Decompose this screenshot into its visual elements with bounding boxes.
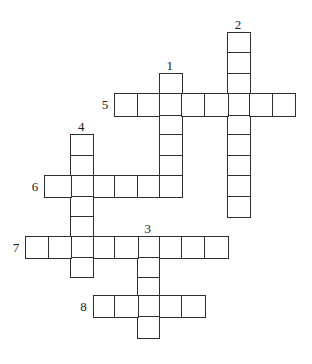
crossword-cell[interactable] — [181, 93, 206, 117]
crossword-cell[interactable] — [204, 236, 229, 259]
clue-number-7: 7 — [13, 240, 20, 253]
crossword-cell[interactable] — [227, 93, 251, 117]
crossword-cell[interactable] — [227, 32, 251, 53]
crossword-cell[interactable] — [227, 52, 251, 75]
crossword-cell[interactable] — [70, 155, 94, 177]
crossword-cell[interactable] — [93, 236, 116, 259]
crossword-cell[interactable] — [25, 236, 49, 259]
crossword-cell[interactable] — [227, 134, 251, 157]
crossword-cell[interactable] — [227, 196, 251, 218]
crossword-cell[interactable] — [204, 93, 229, 117]
crossword-cell[interactable] — [227, 73, 251, 95]
crossword-cell[interactable] — [137, 236, 160, 259]
crossword-cell[interactable] — [70, 196, 94, 218]
crossword-cell[interactable] — [137, 257, 160, 278]
crossword-cell[interactable] — [93, 175, 116, 198]
crossword-cell[interactable] — [70, 216, 94, 238]
crossword-cell[interactable] — [272, 93, 296, 117]
crossword-cell[interactable] — [114, 93, 139, 117]
clue-number-1: 1 — [167, 59, 174, 72]
clue-number-5: 5 — [102, 98, 109, 111]
crossword-cell[interactable] — [137, 295, 160, 318]
crossword-cell[interactable] — [44, 175, 72, 198]
crossword-cell[interactable] — [227, 175, 251, 198]
crossword-cell[interactable] — [114, 236, 139, 259]
crossword-cell[interactable] — [70, 134, 94, 157]
crossword-cell[interactable] — [137, 175, 160, 198]
crossword-cell[interactable] — [227, 115, 251, 136]
crossword-cell[interactable] — [70, 257, 94, 278]
crossword-cell[interactable] — [227, 155, 251, 177]
crossword-cell[interactable] — [70, 236, 94, 259]
clue-number-2: 2 — [235, 18, 242, 31]
clue-number-6: 6 — [32, 179, 39, 192]
crossword-cell[interactable] — [114, 175, 139, 198]
crossword-cell[interactable] — [137, 93, 160, 117]
crossword-cell[interactable] — [159, 73, 183, 95]
crossword-cell[interactable] — [114, 295, 139, 318]
crossword-cell[interactable] — [159, 134, 183, 157]
clue-number-4: 4 — [78, 120, 85, 133]
clue-number-8: 8 — [80, 299, 87, 312]
crossword-cell[interactable] — [159, 93, 183, 117]
crossword-cell[interactable] — [159, 155, 183, 177]
crossword-cell[interactable] — [159, 295, 183, 318]
crossword-cell[interactable] — [70, 175, 94, 198]
crossword-cell[interactable] — [181, 236, 206, 259]
crossword-cell[interactable] — [137, 277, 160, 297]
crossword-cell[interactable] — [93, 295, 116, 318]
crossword-cell[interactable] — [159, 175, 183, 198]
crossword-grid: 12345678 — [0, 0, 312, 364]
crossword-cell[interactable] — [249, 93, 273, 117]
crossword-cell[interactable] — [137, 316, 160, 339]
clue-number-3: 3 — [145, 222, 152, 235]
crossword-cell[interactable] — [181, 295, 206, 318]
crossword-cell[interactable] — [159, 115, 183, 136]
crossword-cell[interactable] — [48, 236, 72, 259]
crossword-cell[interactable] — [159, 236, 183, 259]
